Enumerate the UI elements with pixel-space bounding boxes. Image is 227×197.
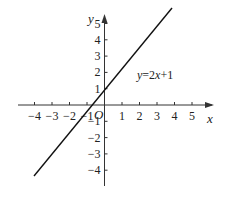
x-axis-label: x — [206, 111, 213, 126]
y-tick-label: −4 — [88, 163, 101, 177]
x-axis-arrow-icon — [205, 102, 214, 108]
x-tick-label: 5 — [189, 109, 195, 123]
y-tick-label: −2 — [88, 131, 101, 145]
y-tick-label: 2 — [95, 65, 101, 79]
origin-label: O — [94, 107, 104, 122]
y-tick-label: 4 — [95, 33, 101, 47]
y-tick-label: 1 — [95, 82, 101, 96]
x-tick-label: 3 — [154, 109, 160, 123]
function-line — [34, 8, 172, 176]
y-axis-arrow-icon — [102, 14, 108, 23]
x-tick-label: 2 — [137, 109, 143, 123]
equation-label: y=2x+1 — [136, 68, 173, 82]
x-tick-label: −3 — [46, 109, 59, 123]
y-tick-label: −3 — [88, 147, 101, 161]
x-tick-label: −2 — [63, 109, 76, 123]
x-tick-label: 4 — [172, 109, 178, 123]
coordinate-plane: −4−3−2−112345 54321−1−2−3−4 x y O y=2x+1 — [0, 0, 227, 197]
y-tick-label: 5 — [95, 17, 101, 31]
x-tick-label: −4 — [28, 109, 41, 123]
y-axis-label: y — [86, 11, 94, 26]
x-tick-label: 1 — [119, 109, 125, 123]
y-tick-label: 3 — [95, 49, 101, 63]
